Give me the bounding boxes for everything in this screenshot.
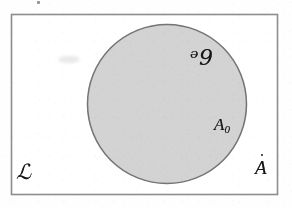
label-a-subscript: 0 — [225, 123, 231, 135]
label-a-dot-base: A — [255, 157, 267, 178]
label-script-l: ℒ — [16, 162, 32, 183]
label-a-dot-accent: A — [255, 158, 267, 177]
label-script-n: ᵊ9 — [190, 47, 214, 69]
dot-accent-icon — [261, 154, 263, 156]
figure-canvas: ᵊ9 A0 ℒ A — [0, 0, 292, 208]
label-a-base: A — [214, 115, 224, 134]
label-a-subscript-zero: A0 — [214, 116, 230, 135]
shaded-disk — [88, 25, 247, 184]
set-diagram-graphic — [0, 0, 292, 208]
